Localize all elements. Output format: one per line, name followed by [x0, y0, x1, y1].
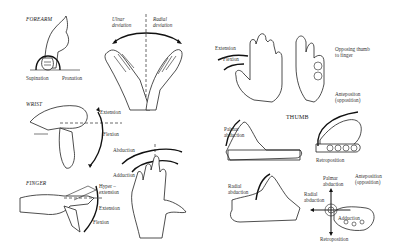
- label-summary-anteposition: Anteposition (opposition): [355, 174, 382, 185]
- heading-wrist: WRIST: [26, 101, 42, 107]
- label-opposing-thumb: Opposing thumb to finger: [335, 47, 370, 58]
- label-thumb-extension: Extension: [215, 46, 236, 52]
- label-palmar-abduction: Palmar abduction: [224, 127, 244, 138]
- label-summary-palmar: Palmar abduction: [323, 176, 343, 187]
- diagram-drawings: [0, 0, 404, 249]
- finger-flexion-drawing: [20, 186, 102, 232]
- radial-abduction-drawing: [230, 174, 300, 222]
- label-finger-hyperextension: Hyper – extension: [99, 184, 119, 195]
- heading-forearm: FOREARM: [26, 16, 52, 22]
- forearm-drawing: [30, 16, 80, 70]
- label-radial-deviation: Radial deviation: [153, 17, 172, 28]
- label-summary-radial: Radial abduction: [304, 192, 324, 203]
- label-summary-adduction: Adduction: [338, 216, 360, 222]
- label-radial-abduction: Radial abduction: [228, 184, 248, 195]
- heading-thumb: THUMB: [286, 114, 309, 120]
- label-finger-abduction: Abduction: [113, 148, 135, 154]
- label-finger-adduction: Adduction: [113, 173, 135, 179]
- label-pronation: Pronation: [62, 76, 82, 82]
- label-wrist-flexion: Flexion: [103, 132, 119, 138]
- finger-abduction-drawing: [122, 144, 186, 238]
- label-finger-extension: Extension: [99, 206, 120, 212]
- thumb-opposition-drawing: [296, 36, 324, 102]
- wrist-deviation-drawing: [105, 14, 182, 110]
- label-summary-retroposition: Retroposition: [320, 237, 348, 243]
- label-anteposition: Antepositon (opposition): [335, 92, 360, 103]
- label-thumb-flexion: Flexion: [223, 57, 239, 63]
- anteposition-drawing: [316, 112, 361, 152]
- label-wrist-extension: Extension: [100, 110, 121, 116]
- thumb-flexion-drawing: [218, 34, 282, 102]
- label-retroposition: Retroposition: [316, 158, 344, 164]
- label-ulnar-deviation: Ulnar deviation: [112, 17, 131, 28]
- label-finger-flexion: Flexion: [93, 220, 109, 226]
- label-supination: Supination: [26, 76, 48, 82]
- heading-finger: FINGER: [26, 180, 46, 186]
